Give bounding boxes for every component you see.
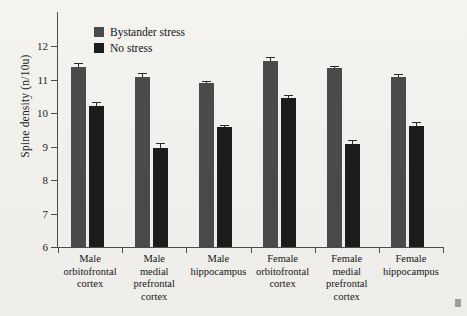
x-axis-tick bbox=[443, 248, 444, 253]
category-label-line: cortex bbox=[122, 291, 186, 304]
y-axis-tick bbox=[51, 180, 57, 181]
bar-no-stress bbox=[345, 144, 360, 247]
bar-bystander-stress bbox=[199, 83, 214, 247]
error-bar-cap bbox=[412, 122, 421, 123]
legend-swatch-icon-no-stress bbox=[94, 43, 104, 53]
bar-no-stress bbox=[217, 127, 232, 247]
y-axis-tick-label: 10 bbox=[28, 108, 48, 119]
error-bar-cap bbox=[220, 125, 229, 126]
bar-bystander-stress bbox=[135, 77, 150, 247]
y-axis-tick-label: 12 bbox=[28, 41, 48, 52]
y-axis-tick bbox=[51, 113, 57, 114]
bar-no-stress bbox=[153, 148, 168, 247]
category-label-line: Male bbox=[186, 253, 250, 266]
legend-label-no-stress: No stress bbox=[110, 42, 153, 54]
y-axis-tick bbox=[51, 147, 57, 148]
y-axis-tick bbox=[51, 46, 57, 47]
y-axis-tick bbox=[51, 80, 57, 81]
error-bar-cap bbox=[92, 102, 101, 103]
error-bar-cap bbox=[266, 57, 275, 58]
category-label-line: orbitofrontal bbox=[58, 266, 122, 279]
category-label-line: cortex bbox=[58, 278, 122, 291]
category-label-line: hippocampus bbox=[186, 266, 250, 279]
corner-mark bbox=[455, 299, 461, 307]
legend-item-no-stress: No stress bbox=[94, 40, 185, 55]
x-axis-category-label: Femaleorbitofrontalcortex bbox=[251, 253, 315, 291]
category-label-line: Female bbox=[379, 253, 443, 266]
category-label-line: prefrontal bbox=[315, 278, 379, 291]
legend: Bystander stress No stress bbox=[94, 24, 185, 56]
category-label-line: prefrontal bbox=[122, 278, 186, 291]
category-label-line: hippocampus bbox=[379, 266, 443, 279]
error-bar-cap bbox=[284, 95, 293, 96]
y-axis-tick-label: 8 bbox=[28, 175, 48, 186]
error-bar-cap bbox=[74, 63, 83, 64]
legend-item-bystander-stress: Bystander stress bbox=[94, 24, 185, 39]
category-label-line: Male bbox=[122, 253, 186, 266]
error-bar-cap bbox=[330, 66, 339, 67]
bar-bystander-stress bbox=[71, 67, 86, 247]
error-bar-cap bbox=[156, 143, 165, 144]
bar-no-stress bbox=[409, 126, 424, 247]
bar-bystander-stress bbox=[263, 61, 278, 247]
bar-bystander-stress bbox=[391, 77, 406, 247]
bar-bystander-stress bbox=[327, 68, 342, 247]
y-axis-tick bbox=[51, 214, 57, 215]
x-axis-category-label: Malehippocampus bbox=[186, 253, 250, 278]
category-label-line: Female bbox=[251, 253, 315, 266]
y-axis-line bbox=[57, 12, 58, 248]
error-bar-cap bbox=[394, 74, 403, 75]
error-bar-cap bbox=[348, 140, 357, 141]
y-axis-tick-label: 7 bbox=[28, 209, 48, 220]
category-label-line: cortex bbox=[251, 278, 315, 291]
x-axis-category-label: Maleorbitofrontalcortex bbox=[58, 253, 122, 291]
category-label-line: medial bbox=[122, 266, 186, 279]
y-axis-tick-label: 6 bbox=[28, 242, 48, 253]
x-axis-category-label: Malemedialprefrontalcortex bbox=[122, 253, 186, 303]
error-bar-cap bbox=[138, 73, 147, 74]
category-label-line: medial bbox=[315, 266, 379, 279]
category-label-line: orbitofrontal bbox=[251, 266, 315, 279]
legend-swatch-icon-bystander-stress bbox=[94, 27, 104, 37]
y-axis-tick bbox=[51, 247, 57, 248]
category-label-line: Female bbox=[315, 253, 379, 266]
bar-no-stress bbox=[281, 98, 296, 247]
y-axis-tick-label: 9 bbox=[28, 142, 48, 153]
category-label-line: Male bbox=[58, 253, 122, 266]
figure-panel: Spine density (n/10u) 6789101112 Bystand… bbox=[0, 0, 467, 316]
bar-no-stress bbox=[89, 106, 104, 247]
y-axis-tick-label: 11 bbox=[28, 75, 48, 86]
x-axis-category-label: Femalehippocampus bbox=[379, 253, 443, 278]
category-label-line: cortex bbox=[315, 291, 379, 304]
error-bar-cap bbox=[202, 81, 211, 82]
x-axis-category-label: Femalemedialprefrontalcortex bbox=[315, 253, 379, 303]
legend-label-bystander-stress: Bystander stress bbox=[110, 26, 185, 38]
